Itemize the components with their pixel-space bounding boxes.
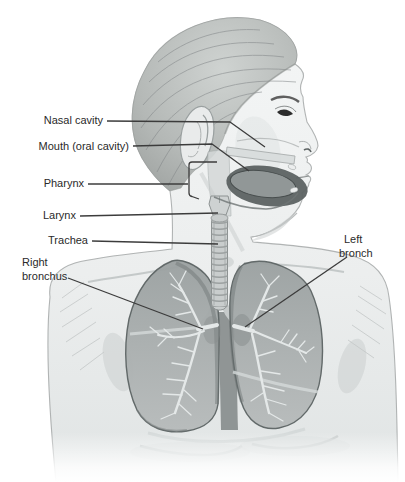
label-pharynx: Pharynx: [44, 177, 84, 191]
label-left-bronchus-line1: Left: [339, 232, 373, 246]
label-nasal-cavity: Nasal cavity: [44, 114, 103, 128]
label-right-bronchus-line1: Right: [22, 256, 67, 270]
bottom-fade: [0, 432, 405, 482]
label-right-bronchus-line2: bronchus: [22, 270, 67, 284]
respiratory-diagram: Nasal cavity Mouth (oral cavity) Pharynx…: [0, 0, 405, 482]
label-left-bronchus-line2: bronch: [339, 246, 373, 260]
label-mouth: Mouth (oral cavity): [39, 140, 129, 154]
label-right-bronchus: Right bronchus: [22, 256, 67, 283]
label-larynx: Larynx: [43, 209, 76, 223]
label-trachea: Trachea: [48, 234, 88, 248]
left-lung: [230, 261, 323, 428]
label-left-bronchus: Left bronch: [339, 232, 373, 260]
